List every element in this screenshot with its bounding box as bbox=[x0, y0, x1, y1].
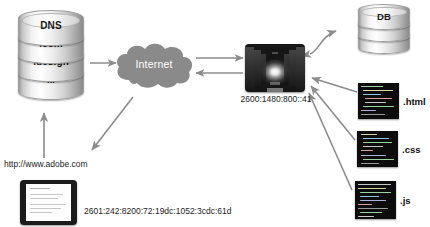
data-center-image bbox=[245, 44, 305, 92]
dns-database[interactable]: ... .design .com DNS bbox=[18, 6, 84, 110]
tablet-screen bbox=[26, 184, 71, 221]
server-ip-label: 2600:1480:800::41 bbox=[237, 94, 315, 104]
internet-cloud[interactable]: Internet bbox=[113, 42, 195, 90]
js-code-thumbnail bbox=[355, 181, 396, 219]
html-code-thumbnail bbox=[358, 83, 399, 119]
db-label: DB bbox=[359, 11, 409, 22]
client-tablet[interactable] bbox=[20, 180, 77, 225]
arrow-html-to-server bbox=[312, 78, 357, 92]
tablet-body bbox=[20, 180, 77, 225]
dns-segment-1: DNS bbox=[18, 10, 84, 46]
client-ip-label: 2601:242:8200:72:19dc:1052:3cdc:61d bbox=[84, 206, 231, 216]
server-node[interactable]: 2600:1480:800::41 bbox=[245, 44, 305, 92]
internet-label: Internet bbox=[113, 58, 195, 70]
html-extension-label: .html bbox=[403, 96, 426, 107]
arrow-js-to-server bbox=[309, 93, 352, 190]
dns-segment-label-1: DNS bbox=[19, 20, 83, 31]
js-extension-label: .js bbox=[400, 195, 411, 206]
db-database[interactable]: DB bbox=[358, 2, 410, 56]
css-extension-label: .css bbox=[402, 144, 421, 155]
arrow-internet-to-client bbox=[92, 97, 133, 150]
network-flow-diagram: ... .design .com DNS Internet bbox=[0, 0, 430, 227]
client-url-label: http://www.adobe.com bbox=[4, 159, 88, 169]
css-file[interactable]: .css bbox=[357, 131, 427, 169]
css-code-thumbnail bbox=[357, 131, 398, 167]
db-segment-1: DB bbox=[358, 4, 410, 30]
arrow-css-to-server bbox=[311, 86, 355, 140]
arrow-server-db bbox=[310, 31, 336, 54]
html-file[interactable]: .html bbox=[358, 83, 428, 121]
js-file[interactable]: .js bbox=[355, 181, 425, 221]
